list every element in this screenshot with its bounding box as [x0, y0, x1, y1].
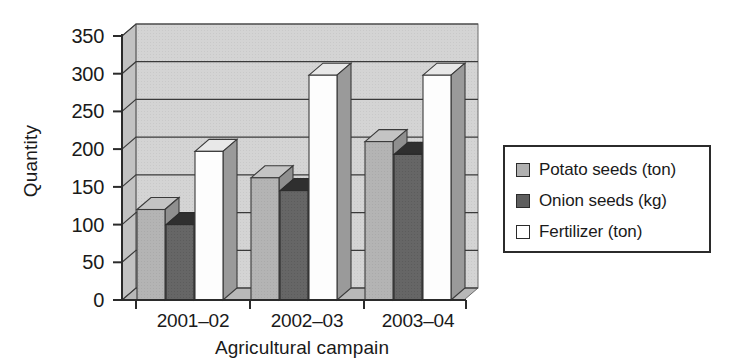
legend-swatch-fertilizer	[516, 225, 530, 239]
x-tick-2001-02: 2001–02	[133, 310, 253, 332]
legend-item-fertilizer: Fertilizer (ton)	[516, 216, 709, 247]
chart-legend: Potato seeds (ton) Onion seeds (kg) Fert…	[503, 145, 711, 253]
legend-item-potato-seeds: Potato seeds (ton)	[516, 154, 709, 185]
legend-label-onion-seeds: Onion seeds (kg)	[539, 191, 667, 211]
legend-swatch-onion-seeds	[516, 194, 530, 208]
legend-label-fertilizer: Fertilizer (ton)	[539, 222, 642, 242]
bar-chart: Quantity 350 300 250 200 150 100 50 0 20…	[0, 0, 748, 362]
legend-swatch-potato-seeds	[516, 163, 530, 177]
x-tick-2003-04: 2003–04	[358, 310, 478, 332]
legend-label-potato-seeds: Potato seeds (ton)	[539, 160, 676, 180]
x-axis-title: Agricultural campain	[120, 337, 484, 359]
legend-item-onion-seeds: Onion seeds (kg)	[516, 185, 709, 216]
x-tick-2002-03: 2002–03	[247, 310, 367, 332]
